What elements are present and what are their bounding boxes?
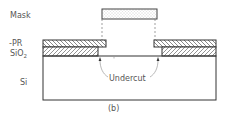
label-pr: -PR [9, 39, 23, 48]
mask-layer [102, 9, 157, 19]
label-si: Si [20, 78, 27, 87]
photoresist-layer [43, 40, 216, 47]
arrowhead-icon [99, 57, 160, 61]
label-sio2: SiO2 [10, 49, 27, 59]
label-undercut: Undercut [109, 74, 146, 83]
cross-section-diagram: Mask -PR SiO2 Si Undercut (b) [0, 0, 227, 121]
label-mask: Mask [10, 11, 31, 20]
label-sio2-main: SiO [10, 49, 24, 58]
figure-caption: (b) [108, 104, 119, 113]
label-sio2-subscript: 2 [24, 53, 28, 59]
mask-projection-lines [102, 19, 155, 40]
sio2-layer [43, 47, 216, 56]
